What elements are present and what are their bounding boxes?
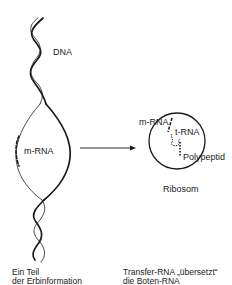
ribosome-mrna-label: m-RNA	[139, 117, 169, 127]
mrna-label: m-RNA	[24, 146, 54, 156]
polypeptid-label: Polypeptid	[183, 152, 225, 162]
caption-right-line2: die Boten-RNA	[123, 277, 180, 285]
diagram-canvas	[0, 0, 232, 285]
caption-left-line2: der Erbinformation	[12, 277, 82, 285]
trna-label: t-RNA	[175, 127, 200, 137]
ribosom-label: Ribosom	[163, 184, 199, 194]
dna-label: DNA	[53, 47, 72, 57]
dna-helix-top-icon	[30, 18, 46, 104]
arrow-right-icon	[80, 146, 136, 151]
dna-helix-bottom-icon	[33, 200, 45, 262]
